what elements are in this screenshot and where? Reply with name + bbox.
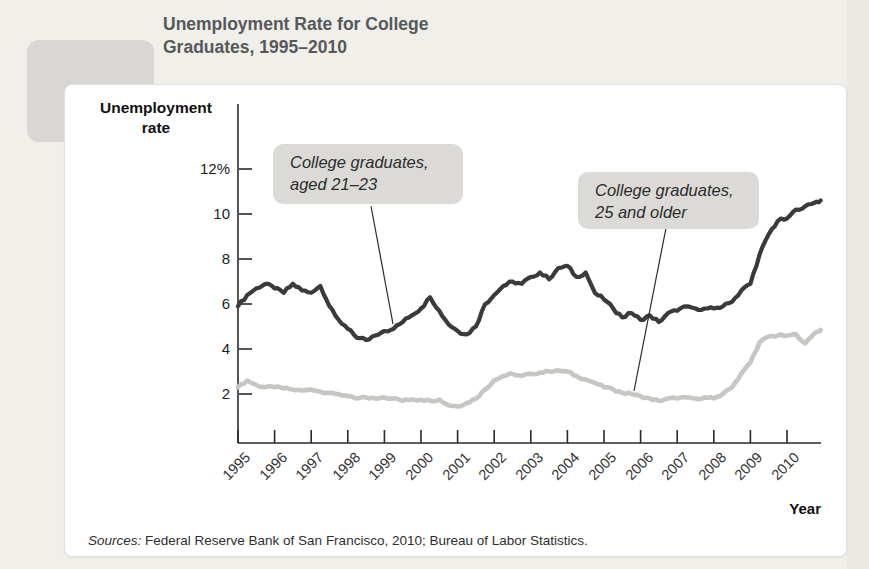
y-axis-title-line2: rate	[86, 118, 226, 138]
y-tick-label: 8	[178, 250, 230, 267]
x-axis-title: Year	[721, 500, 821, 517]
annotation-aged-21-23: College graduates, aged 21–23	[273, 144, 463, 204]
y-axis-ticks	[239, 169, 252, 394]
sources-note: Sources: Federal Reserve Bank of San Fra…	[88, 533, 588, 548]
chart-panel: Unemployment rate 12%108642 199519961997…	[64, 84, 847, 557]
y-tick-label: 10	[178, 205, 230, 222]
annotation-aged-21-23-line2: aged 21–23	[290, 173, 453, 195]
figure-title-line2: Graduates, 1995–2010	[163, 36, 428, 59]
y-tick-label: 6	[178, 295, 230, 312]
sources-text: Federal Reserve Bank of San Francisco, 2…	[141, 533, 587, 548]
annotation-aged-21-23-line1: College graduates,	[290, 151, 453, 173]
y-tick-label: 4	[178, 340, 230, 357]
annotation-25-and-older-line1: College graduates,	[595, 179, 749, 201]
y-axis-title-line1: Unemployment	[86, 98, 226, 118]
figure-title: Unemployment Rate for College Graduates,…	[163, 13, 428, 59]
x-axis-ticks	[238, 430, 787, 443]
page: { "figure": { "label": "FIGURE", "number…	[0, 0, 869, 569]
annotation-pointer-25-and-older	[634, 228, 666, 391]
y-axis-title: Unemployment rate	[86, 98, 226, 138]
y-tick-label: 2	[178, 385, 230, 402]
page-margin-strip	[847, 0, 869, 569]
annotation-25-and-older: College graduates, 25 and older	[578, 172, 759, 229]
sources-label: Sources:	[88, 533, 141, 548]
annotation-pointer-aged-21-23	[371, 206, 393, 324]
y-tick-label: 12%	[178, 160, 230, 177]
figure-title-line1: Unemployment Rate for College	[163, 13, 428, 36]
series-25-and-older-line	[238, 330, 821, 407]
annotation-25-and-older-line2: 25 and older	[595, 201, 749, 223]
